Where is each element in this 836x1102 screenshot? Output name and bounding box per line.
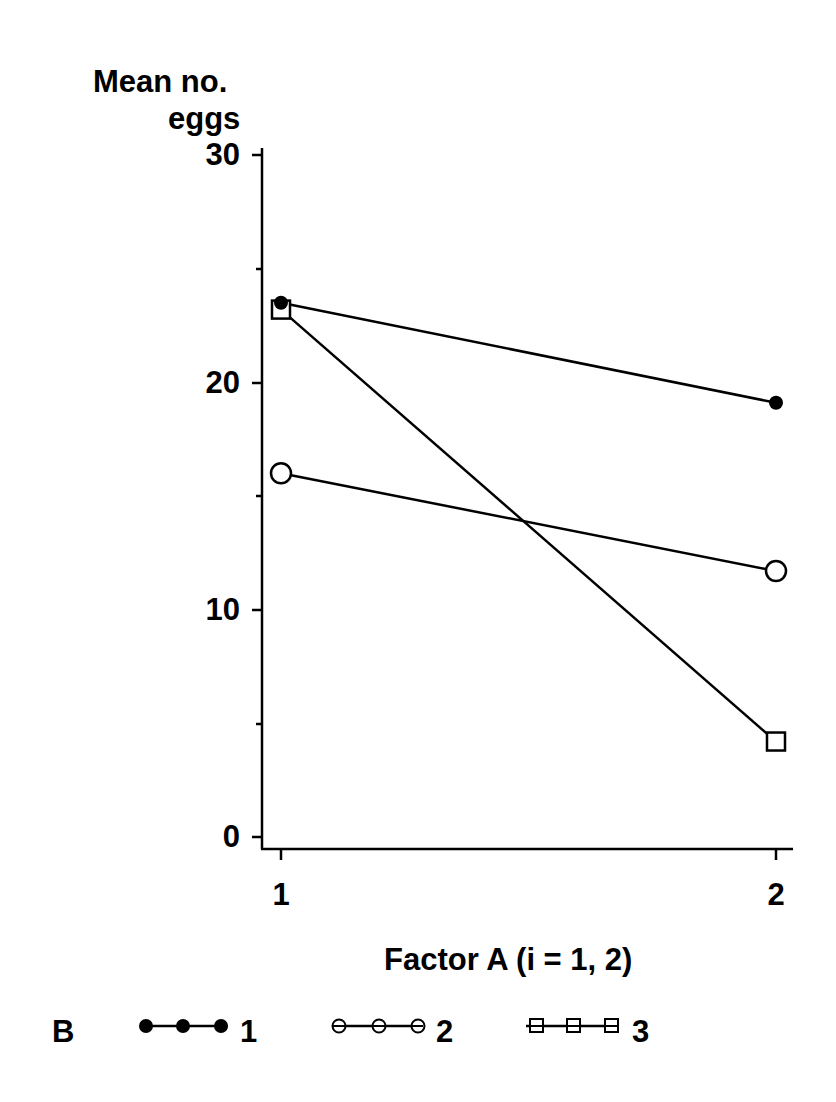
data-point-marker	[274, 296, 288, 310]
y-tick-label-20: 20	[180, 365, 240, 401]
series-line-1	[281, 303, 776, 403]
x-tick-label-2: 2	[756, 877, 796, 913]
y-tick-label-10: 10	[180, 592, 240, 628]
legend-glyph-2	[333, 1020, 425, 1033]
data-point-marker	[766, 561, 786, 581]
x-axis-label: Factor A (i = 1, 2)	[384, 942, 632, 978]
series-line-2	[281, 473, 776, 571]
legend-label-1: 1	[240, 1014, 257, 1050]
legend-label-2: 2	[436, 1014, 453, 1050]
plot-area	[0, 0, 836, 1102]
legend-glyph-3	[526, 1019, 618, 1032]
data-point-marker	[767, 733, 785, 751]
x-tick-label-1: 1	[261, 877, 301, 913]
legend-label-3: 3	[632, 1014, 649, 1050]
data-point-marker	[769, 396, 783, 410]
y-axis-label-line2: eggs	[168, 101, 240, 137]
series-line-3	[281, 310, 776, 742]
data-point-marker	[271, 463, 291, 483]
y-tick-label-0: 0	[180, 819, 240, 855]
series-lines	[281, 303, 776, 742]
x-ticks	[281, 849, 776, 860]
y-tick-label-30: 30	[180, 137, 240, 173]
y-ticks	[252, 155, 262, 837]
y-axis-label-line1: Mean no.	[93, 64, 227, 100]
legend-title: B	[52, 1014, 74, 1050]
legend-glyph-1	[139, 1019, 228, 1033]
